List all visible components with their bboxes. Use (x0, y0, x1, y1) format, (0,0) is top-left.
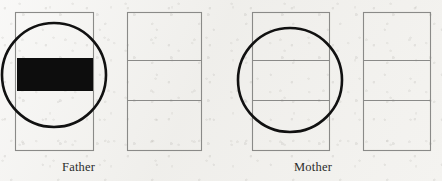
mother-chromosome-2-group (364, 13, 431, 151)
father-chromosome-1-filled-band (17, 58, 93, 91)
father-chromosome-2-outline (128, 13, 202, 151)
mother-caption: Mother (294, 160, 332, 175)
mother-chromosome-1-group (238, 13, 342, 151)
father-chromosome-2-group (128, 13, 202, 151)
father-chromosome-1-group (2, 13, 106, 151)
inheritance-diagram (0, 0, 442, 181)
mother-chromosome-2-outline (364, 13, 431, 151)
figure-page: Father Mother (0, 0, 442, 181)
mother-chromosome-1-outline (253, 13, 330, 151)
father-caption: Father (62, 160, 95, 175)
mother-chromosome-1-highlight-circle (238, 28, 342, 132)
